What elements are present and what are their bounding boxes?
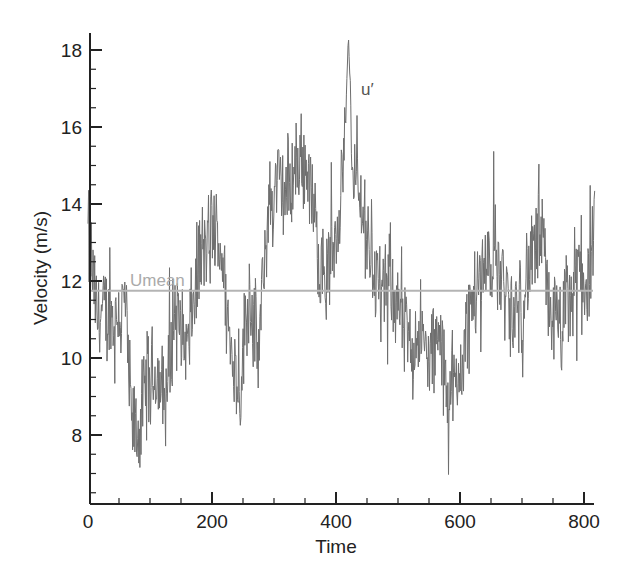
y-tick-label: 12 — [61, 271, 82, 292]
velocity-time-chart: 810121416180200400600800 Time Velocity (… — [0, 0, 625, 580]
x-tick-label: 0 — [83, 511, 94, 532]
y-axis-title: Velocity (m/s) — [30, 211, 51, 325]
plot-area — [88, 40, 595, 474]
y-tick-label: 8 — [71, 425, 82, 446]
x-tick-label: 200 — [196, 511, 228, 532]
y-tick-label: 14 — [61, 194, 83, 215]
y-tick-label: 18 — [61, 40, 82, 61]
x-tick-label: 800 — [568, 511, 600, 532]
umean-label: Umean — [130, 271, 185, 290]
y-tick-label: 16 — [61, 117, 82, 138]
x-tick-label: 600 — [444, 511, 476, 532]
u-prime-series — [88, 40, 595, 474]
x-tick-label: 400 — [320, 511, 352, 532]
u-prime-label: u′ — [361, 80, 374, 99]
y-tick-label: 10 — [61, 348, 82, 369]
x-axis-title: Time — [315, 536, 357, 557]
